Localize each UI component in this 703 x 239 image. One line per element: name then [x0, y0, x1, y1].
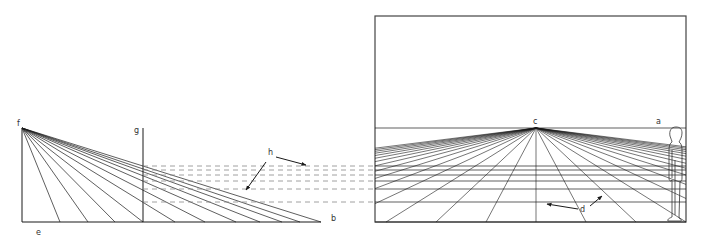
orthogonal-line	[536, 128, 686, 154]
orthogonal-line	[536, 128, 686, 147]
perspective-diagram: f g e b h c a d	[0, 0, 703, 239]
human-figure-icon	[668, 127, 682, 221]
sight-ray	[22, 128, 143, 222]
d-arrow-up	[590, 196, 602, 206]
label-h: h	[268, 149, 273, 157]
orthogonal-line	[375, 128, 536, 189]
orthogonal-line	[536, 128, 686, 163]
diagram-canvas	[0, 0, 703, 239]
sight-ray	[22, 128, 88, 222]
d-arrow-left	[547, 204, 578, 209]
sight-ray	[22, 128, 205, 222]
orthogonal-line	[375, 128, 536, 162]
orthogonal-line	[536, 128, 686, 184]
h-arrow-right	[276, 157, 306, 165]
orthogonal-line	[375, 128, 536, 166]
label-g: g	[134, 127, 139, 135]
orthogonal-line	[536, 128, 686, 159]
label-e: e	[36, 229, 41, 237]
label-f: f	[17, 120, 20, 128]
label-a: a	[656, 118, 661, 126]
orthogonal-line	[536, 128, 686, 175]
orthogonal-line	[375, 128, 536, 178]
picture-frame	[375, 16, 686, 222]
sight-ray	[22, 128, 115, 222]
label-b: b	[331, 215, 336, 223]
label-c: c	[533, 118, 537, 126]
annotation-arrows	[246, 157, 602, 209]
orthogonal-line	[375, 128, 536, 156]
label-d: d	[580, 206, 585, 214]
perspective-view	[375, 16, 686, 222]
